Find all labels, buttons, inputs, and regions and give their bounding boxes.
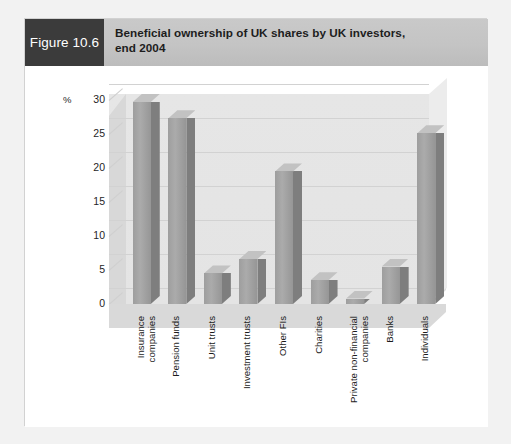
figure-number-tag: Figure 10.6 <box>25 19 104 66</box>
x-axis-label: Charities <box>314 316 325 354</box>
chart-area: 051015202530% InsurancecompaniesPension … <box>25 66 488 427</box>
x-axis-label: Unit trusts <box>207 316 218 359</box>
x-axis-label: Insurance <box>136 316 147 358</box>
x-axis-label: Banks <box>385 316 396 343</box>
screenshot-root: Figure 10.6 Beneficial ownership of UK s… <box>0 0 511 444</box>
x-axis-label: companies <box>147 316 158 362</box>
x-axis-label: companies <box>360 316 371 362</box>
figure-card: Figure 10.6 Beneficial ownership of UK s… <box>24 18 487 426</box>
figure-title-line2: end 2004 <box>115 41 475 56</box>
figure-title: Beneficial ownership of UK shares by UK … <box>115 26 475 55</box>
x-axis-label: Pension funds <box>171 316 182 377</box>
x-axis-label: Other FIs <box>278 316 289 356</box>
x-axis-label: Individuals <box>420 316 431 361</box>
figure-header: Figure 10.6 Beneficial ownership of UK s… <box>25 19 488 66</box>
x-axis-labels: InsurancecompaniesPension fundsUnit trus… <box>25 66 488 427</box>
figure-title-line1: Beneficial ownership of UK shares by UK … <box>115 26 405 39</box>
x-axis-label: Investment trusts <box>242 316 253 389</box>
